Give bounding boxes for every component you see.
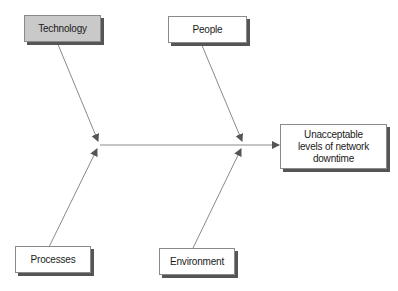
effect-box: Unacceptable levels of network downtime [280, 124, 387, 169]
cause-label-environment: Environment [170, 256, 224, 268]
branch-environment [193, 149, 241, 248]
cause-label-technology: Technology [38, 23, 87, 35]
branch-people [201, 43, 242, 141]
effect-label-line-1: Unacceptable [304, 129, 363, 141]
effect-label-line-3: downtime [313, 153, 354, 165]
branch-processes [49, 149, 97, 247]
cause-box-processes: Processes [15, 246, 91, 273]
cause-label-people: People [193, 24, 223, 36]
cause-box-technology: Technology [24, 15, 101, 42]
cause-label-processes: Processes [31, 254, 76, 266]
branch-technology [57, 42, 98, 141]
cause-box-environment: Environment [159, 248, 235, 275]
cause-box-people: People [168, 16, 247, 43]
effect-label-line-2: levels of network [298, 141, 369, 153]
fishbone-diagram: Technology People Processes Environment … [0, 0, 398, 291]
